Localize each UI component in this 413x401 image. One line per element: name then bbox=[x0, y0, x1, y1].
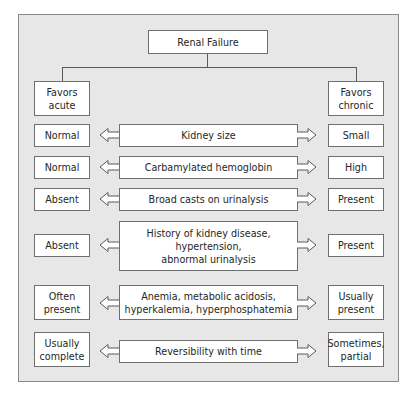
arrow-right-icon bbox=[297, 344, 318, 358]
header-left-label: Favors acute bbox=[46, 86, 77, 112]
row-center-box: Kidney size bbox=[119, 124, 298, 147]
connector-vertical-left bbox=[62, 67, 63, 81]
row-left-label: Often present bbox=[44, 290, 80, 316]
connector-vertical-title bbox=[207, 54, 208, 67]
row-left-label: Usually complete bbox=[40, 337, 85, 363]
header-favors-chronic: Favors chronic bbox=[328, 81, 384, 116]
row-center-box: Anemia, metabolic acidosis, hyperkalemia… bbox=[119, 285, 298, 320]
row-left-box: Often present bbox=[34, 285, 90, 320]
row-right-box: High bbox=[328, 156, 384, 179]
header-favors-acute: Favors acute bbox=[34, 81, 90, 116]
row-left-box: Absent bbox=[34, 234, 90, 257]
arrow-left-icon bbox=[99, 160, 120, 174]
arrow-right-icon bbox=[297, 238, 318, 252]
row-left-label: Absent bbox=[45, 239, 78, 252]
row-right-label: Usually present bbox=[338, 290, 374, 316]
row-right-label: Sometimes, partial bbox=[328, 337, 385, 363]
row-right-box: Sometimes, partial bbox=[328, 332, 384, 367]
row-right-label: Present bbox=[338, 193, 374, 206]
row-right-label: Small bbox=[343, 129, 370, 142]
row-center-label: Broad casts on urinalysis bbox=[149, 193, 269, 206]
arrow-left-icon bbox=[99, 128, 120, 142]
row-left-label: Absent bbox=[45, 193, 78, 206]
connector-vertical-right bbox=[356, 67, 357, 81]
arrow-right-icon bbox=[297, 192, 318, 206]
title-box: Renal Failure bbox=[148, 30, 268, 54]
connector-horizontal bbox=[62, 67, 357, 68]
row-center-box: History of kidney disease, hypertension,… bbox=[119, 221, 298, 271]
arrow-left-icon bbox=[99, 238, 120, 252]
row-left-label: Normal bbox=[45, 129, 80, 142]
row-center-box: Broad casts on urinalysis bbox=[119, 188, 298, 211]
row-left-box: Normal bbox=[34, 156, 90, 179]
row-right-box: Present bbox=[328, 188, 384, 211]
arrow-right-icon bbox=[297, 128, 318, 142]
row-right-label: Present bbox=[338, 239, 374, 252]
row-center-label: Anemia, metabolic acidosis, hyperkalemia… bbox=[125, 290, 293, 316]
row-center-label: Kidney size bbox=[181, 129, 235, 142]
arrow-left-icon bbox=[99, 296, 120, 310]
arrow-right-icon bbox=[297, 296, 318, 310]
arrow-left-icon bbox=[99, 192, 120, 206]
row-center-box: Carbamylated hemoglobin bbox=[119, 156, 298, 179]
row-right-box: Present bbox=[328, 234, 384, 257]
arrow-left-icon bbox=[99, 344, 120, 358]
row-right-box: Small bbox=[328, 124, 384, 147]
row-right-label: High bbox=[345, 161, 367, 174]
row-center-label: Carbamylated hemoglobin bbox=[145, 161, 273, 174]
row-left-box: Absent bbox=[34, 188, 90, 211]
row-center-label: History of kidney disease, hypertension,… bbox=[147, 227, 271, 266]
title-label: Renal Failure bbox=[177, 36, 238, 49]
row-left-box: Normal bbox=[34, 124, 90, 147]
arrow-right-icon bbox=[297, 160, 318, 174]
row-right-box: Usually present bbox=[328, 285, 384, 320]
row-left-box: Usually complete bbox=[34, 332, 90, 367]
header-right-label: Favors chronic bbox=[339, 86, 374, 112]
row-left-label: Normal bbox=[45, 161, 80, 174]
row-center-box: Reversibility with time bbox=[119, 340, 298, 363]
row-center-label: Reversibility with time bbox=[155, 345, 262, 358]
